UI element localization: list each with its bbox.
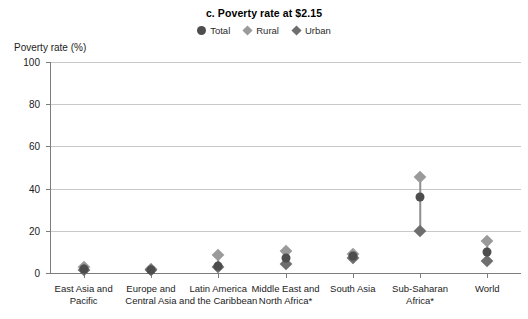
x-axis-label-6: World (439, 283, 528, 295)
data-point-rural-6 (481, 235, 494, 248)
data-point-urban-5 (414, 224, 427, 237)
y-tick-label: 40 (10, 183, 40, 194)
y-tick-label: 100 (10, 57, 40, 68)
x-axis-label-line: North Africa* (238, 295, 334, 307)
x-tick-mark (218, 273, 219, 278)
gridline (50, 189, 521, 190)
data-point-total-4 (348, 251, 357, 260)
gridline (50, 62, 521, 63)
x-axis-label-line: World (439, 283, 528, 295)
data-point-total-2 (214, 261, 223, 270)
y-axis-line (50, 62, 51, 274)
x-tick-mark (353, 273, 354, 278)
data-point-rural-5 (414, 171, 427, 184)
y-tick-label: 20 (10, 225, 40, 236)
data-point-total-0 (79, 264, 88, 273)
gridline (50, 146, 521, 147)
x-tick-mark (286, 273, 287, 278)
x-tick-mark (420, 273, 421, 278)
data-point-total-6 (483, 248, 492, 257)
gridline (50, 231, 521, 232)
data-point-urban-6 (481, 255, 494, 268)
x-axis-label-line: Africa* (372, 295, 468, 307)
data-point-total-1 (146, 265, 155, 274)
x-tick-mark (487, 273, 488, 278)
range-connector-line (419, 177, 421, 231)
poverty-rate-chart-figure: c. Poverty rate at $2.15 TotalRuralUrban… (0, 0, 528, 319)
y-tick-label: 0 (10, 268, 40, 279)
data-point-total-3 (281, 254, 290, 263)
plot-area: 020406080100East Asia andPacificEurope a… (0, 0, 528, 319)
y-tick-label: 60 (10, 141, 40, 152)
gridline (50, 104, 521, 105)
y-tick-label: 80 (10, 99, 40, 110)
data-point-rural-2 (212, 249, 225, 262)
data-point-total-5 (416, 193, 425, 202)
